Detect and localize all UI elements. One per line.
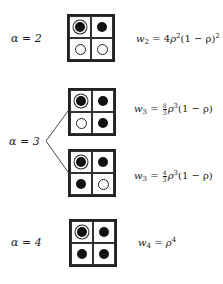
- alpha-label-4: α = 4: [11, 236, 42, 249]
- ringed-dot-icon: [76, 157, 86, 167]
- eq-sub: 3: [143, 108, 147, 116]
- config-grid-alpha4: [69, 219, 117, 267]
- cell: [93, 243, 115, 265]
- filled-dot-icon: [77, 249, 87, 259]
- filled-dot-icon: [98, 157, 108, 167]
- eq-sign: =: [150, 103, 158, 114]
- filled-dot-icon: [98, 118, 108, 128]
- config-grid-alpha3-b: [68, 149, 116, 197]
- eq-sub: 3: [143, 175, 147, 183]
- config-grid-alpha3-a: [68, 88, 116, 136]
- eq-lhs: w: [134, 103, 143, 114]
- alpha-label-3: α = 3: [9, 135, 40, 148]
- empty-dot-icon: [76, 118, 87, 129]
- eq-rho-exp: 4: [172, 236, 176, 244]
- weight-equation-w3-b: w3 = 43ρ3(1 − ρ): [134, 170, 213, 183]
- filled-dot-icon: [76, 179, 86, 189]
- weight-equation-w4: w4 = ρ4: [138, 237, 176, 248]
- filled-dot-icon: [99, 227, 109, 237]
- cell: [71, 243, 93, 265]
- filled-dot-icon: [99, 249, 109, 259]
- eq-lhs: w: [134, 170, 143, 181]
- filled-dot-icon: [98, 96, 108, 106]
- eq-sub: 4: [147, 242, 151, 250]
- eq-factor: (1 − ρ): [178, 170, 213, 181]
- eq-fraction: 43: [163, 170, 167, 183]
- cell: [71, 221, 93, 243]
- eq-factor: (1 − ρ): [178, 103, 213, 114]
- cell: [70, 151, 92, 173]
- eq-lhs: w: [138, 237, 147, 248]
- ringed-dot-icon: [77, 227, 87, 237]
- frac-den: 3: [163, 177, 167, 183]
- cell: [93, 221, 115, 243]
- eq-sign: =: [150, 170, 158, 181]
- ringed-dot-icon: [76, 96, 86, 106]
- cell: [70, 173, 92, 195]
- weight-equation-w3-a: w3 = 83ρ3(1 − ρ): [134, 103, 213, 116]
- cell: [92, 112, 114, 134]
- cell: [92, 90, 114, 112]
- eq-sign: =: [154, 237, 162, 248]
- cell: [92, 151, 114, 173]
- cell: [70, 90, 92, 112]
- eq-fraction: 83: [163, 103, 167, 116]
- frac-den: 3: [163, 110, 167, 116]
- cell: [70, 112, 92, 134]
- empty-dot-icon: [98, 179, 109, 190]
- cell: [92, 173, 114, 195]
